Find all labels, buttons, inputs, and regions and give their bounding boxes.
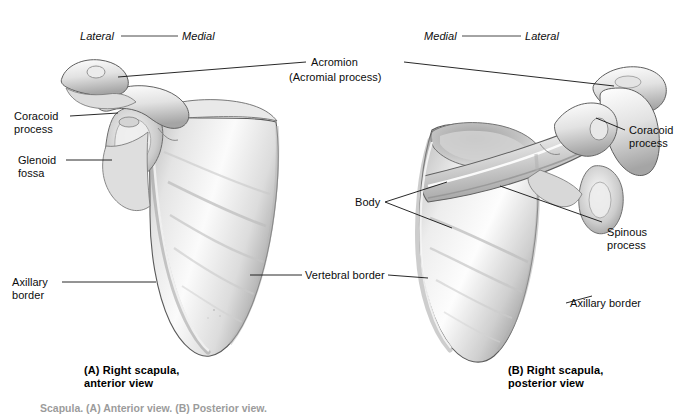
label-coracoid-process-b-line2: process [629,137,668,150]
orientation-left-lateral: Lateral [80,30,114,43]
label-body: Body [355,196,380,209]
leader-coracoid-a [70,113,118,116]
label-spinous-process-line1: Spinous [607,226,647,239]
orientation-right-lateral: Lateral [525,30,559,43]
orientation-left-medial: Medial [182,30,215,43]
label-acromial-process: (Acromial process) [289,71,382,84]
label-axillary-border-b: Axillary border [570,297,641,310]
label-glenoid-fossa-line1: Glenoid [18,154,56,167]
label-vertebral-border: Vertebral border [305,269,385,282]
caption-a-line2: anterior view [84,377,153,390]
label-coracoid-process-a-line2: process [14,123,53,136]
label-coracoid-process-a-line1: Coracoid [14,110,58,123]
leader-acromion-b [404,62,614,86]
label-coracoid-process-b-line1: Coracoid [629,124,673,137]
leader-acromion-a [118,62,306,77]
orientation-right-medial: Medial [424,30,457,43]
label-axillary-border-a-line1: Axillary [12,276,48,289]
label-spinous-process-line2: process [607,239,646,252]
scapula-anterior [61,60,278,357]
caption-b-line1: (B) Right scapula, [508,364,603,377]
label-acromion: Acromion [311,56,358,69]
figure-footer-caption: Scapula. (A) Anterior view. (B) Posterio… [40,402,267,414]
caption-b-line2: posterior view [508,377,584,390]
caption-a-line1: (A) Right scapula, [84,364,179,377]
label-axillary-border-a-line2: border [12,289,44,302]
label-glenoid-fossa-line2: fossa [18,167,45,180]
scapula-posterior [418,67,667,362]
